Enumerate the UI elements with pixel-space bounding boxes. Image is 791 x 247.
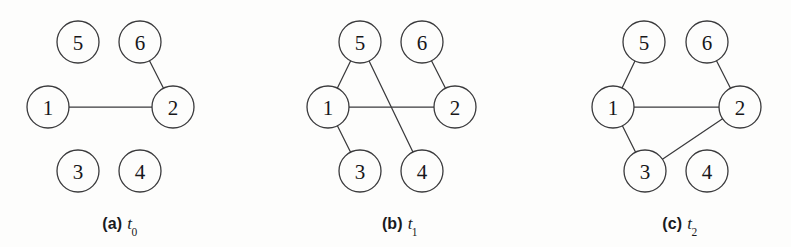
graph-node[interactable]: 6 bbox=[686, 21, 728, 63]
graph-evolution-figure: 561234561234561234 (a)t0(b)t1(c)t2 bbox=[0, 0, 791, 247]
graph-node[interactable]: 3 bbox=[339, 150, 381, 192]
node-label: 6 bbox=[135, 31, 146, 55]
graph-node[interactable]: 2 bbox=[152, 86, 194, 128]
graph-node[interactable]: 3 bbox=[57, 150, 99, 192]
node-label: 5 bbox=[355, 31, 366, 55]
node-label: 4 bbox=[702, 160, 713, 184]
graph-node[interactable]: 2 bbox=[434, 86, 476, 128]
node-label: 3 bbox=[640, 160, 651, 184]
graph-node[interactable]: 1 bbox=[27, 86, 69, 128]
graph-canvas: 561234561234561234 bbox=[0, 0, 791, 247]
graph-edge bbox=[432, 61, 446, 89]
node-label: 6 bbox=[417, 31, 428, 55]
graph-node[interactable]: 1 bbox=[592, 86, 634, 128]
node-label: 1 bbox=[608, 96, 619, 120]
node-label: 3 bbox=[355, 160, 366, 184]
graph-node[interactable]: 2 bbox=[719, 86, 761, 128]
node-label: 2 bbox=[168, 96, 179, 120]
panel-caption: (c)t2 bbox=[662, 215, 697, 236]
graph-edge bbox=[622, 126, 635, 152]
node-label: 5 bbox=[639, 31, 650, 55]
panel-a: 561234 bbox=[27, 21, 194, 192]
caption-subscript: 0 bbox=[131, 226, 137, 238]
graph-node[interactable]: 5 bbox=[339, 21, 381, 63]
node-label: 4 bbox=[417, 160, 428, 184]
caption-tag: (b) bbox=[382, 215, 403, 232]
node-label: 1 bbox=[43, 96, 54, 120]
node-label: 4 bbox=[135, 160, 146, 184]
graph-edge bbox=[337, 61, 350, 88]
graph-node[interactable]: 3 bbox=[624, 150, 666, 192]
edge-group bbox=[337, 61, 445, 152]
graph-node[interactable]: 4 bbox=[401, 150, 443, 192]
graph-edge bbox=[150, 61, 164, 89]
graph-edge bbox=[622, 61, 635, 88]
caption-subscript: 1 bbox=[412, 226, 418, 238]
graph-node[interactable]: 1 bbox=[307, 86, 349, 128]
edge-group bbox=[622, 61, 730, 160]
panel-caption: (a)t0 bbox=[102, 215, 137, 236]
panel-caption: (b)t1 bbox=[382, 215, 418, 236]
node-label: 2 bbox=[450, 96, 461, 120]
node-label: 3 bbox=[73, 160, 84, 184]
graph-edge bbox=[337, 126, 350, 152]
caption-tag: (c) bbox=[662, 215, 682, 232]
node-label: 2 bbox=[735, 96, 746, 120]
graph-node[interactable]: 5 bbox=[57, 21, 99, 63]
graph-node[interactable]: 5 bbox=[623, 21, 665, 63]
graph-node[interactable]: 6 bbox=[119, 21, 161, 63]
panel-c: 561234 bbox=[592, 21, 761, 192]
panel-b: 561234 bbox=[307, 21, 476, 192]
caption-tag: (a) bbox=[102, 215, 122, 232]
graph-edge bbox=[717, 61, 731, 89]
node-label: 5 bbox=[73, 31, 84, 55]
graph-node[interactable]: 4 bbox=[119, 150, 161, 192]
caption-subscript: 2 bbox=[691, 226, 697, 238]
node-label: 1 bbox=[323, 96, 334, 120]
edge-group bbox=[69, 61, 163, 107]
graph-node[interactable]: 6 bbox=[401, 21, 443, 63]
node-label: 6 bbox=[702, 31, 713, 55]
graph-node[interactable]: 4 bbox=[686, 150, 728, 192]
